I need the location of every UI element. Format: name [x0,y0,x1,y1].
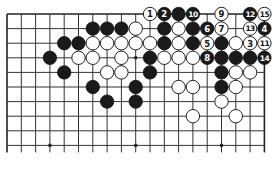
move-number: 7 [219,24,225,34]
black-stone [186,37,199,50]
black-stone [158,22,171,35]
black-stone-move-2: 2 [158,7,171,20]
move-number: 8 [204,53,210,63]
black-stone [72,37,85,50]
black-stone [215,80,228,93]
stones: 121091215671345311814 [43,7,271,123]
white-stone-move-15: 15 [258,7,271,20]
black-stone [243,51,256,64]
white-stone-move-1: 1 [143,7,156,20]
white-stone [115,37,128,50]
black-stone [100,22,113,35]
move-number: 2 [161,9,167,19]
black-stone [43,51,56,64]
white-stone [129,22,142,35]
white-stone [172,80,185,93]
white-stone [115,66,128,79]
white-stone [86,37,99,50]
black-stone-move-6: 6 [201,22,214,35]
black-stone [215,51,228,64]
white-stone [172,51,185,64]
hoshi-point [134,56,138,60]
hoshi-point [48,144,52,148]
move-number: 12 [245,10,255,19]
white-stone [229,110,242,123]
move-number: 14 [260,54,270,63]
black-stone [186,22,199,35]
black-stone [129,80,142,93]
black-stone-move-10: 10 [186,7,199,20]
white-stone-move-3: 3 [243,37,256,50]
white-stone [186,110,199,123]
move-number: 9 [219,9,225,19]
white-stone [186,80,199,93]
black-stone [129,95,142,108]
white-stone [115,51,128,64]
white-stone [86,51,99,64]
black-stone [57,37,70,50]
move-number: 3 [247,39,253,49]
move-number: 11 [260,39,270,48]
black-stone [86,22,99,35]
white-stone-move-7: 7 [215,22,228,35]
white-stone [186,51,199,64]
white-stone-move-9: 9 [215,7,228,20]
black-stone [215,37,228,50]
go-board: 121091215671345311814 [0,0,276,170]
black-stone [57,66,70,79]
black-stone-move-4: 4 [258,22,271,35]
move-number: 10 [188,10,198,19]
move-number: 15 [260,10,270,19]
white-stone-move-13: 13 [243,22,256,35]
black-stone-move-14: 14 [258,51,271,64]
move-number: 6 [204,24,210,34]
white-stone [143,37,156,50]
white-stone-move-11: 11 [258,37,271,50]
white-stone [243,66,256,79]
move-number: 4 [261,24,267,34]
white-stone [172,22,185,35]
white-stone [100,37,113,50]
white-stone [229,66,242,79]
hoshi-point [220,144,224,148]
white-stone [129,37,142,50]
move-number: 13 [245,24,255,33]
black-stone [100,95,113,108]
hoshi-point [134,144,138,148]
black-stone [215,66,228,79]
white-stone-move-5: 5 [201,37,214,50]
white-stone [229,37,242,50]
black-stone [86,80,99,93]
black-stone [172,7,185,20]
move-number: 5 [204,39,210,49]
black-stone-move-12: 12 [243,7,256,20]
black-stone [115,22,128,35]
white-stone [158,51,171,64]
black-stone [158,37,171,50]
white-stone [215,95,228,108]
white-stone [172,37,185,50]
black-stone-move-8: 8 [201,51,214,64]
black-stone [143,66,156,79]
white-stone [72,51,85,64]
black-stone [229,51,242,64]
move-number: 1 [147,9,153,19]
black-stone [143,51,156,64]
white-stone [100,66,113,79]
white-stone [229,80,242,93]
